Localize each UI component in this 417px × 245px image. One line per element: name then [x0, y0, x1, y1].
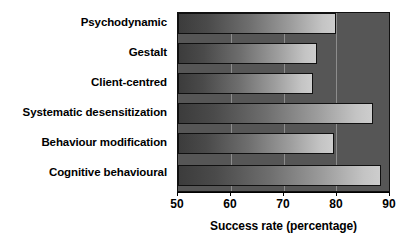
x-tick-label-90: 90 — [369, 197, 409, 211]
bar-chart: Psychodynamic Gestalt Client-centred Sys… — [0, 0, 417, 245]
bar-gestalt — [178, 43, 317, 64]
bar-systematic-desensitization — [178, 103, 373, 124]
x-axis-title: Success rate (percentage) — [177, 219, 390, 233]
x-tick-mark-80 — [336, 192, 337, 196]
x-tick-mark-70 — [283, 192, 284, 196]
x-tick-mark-90 — [389, 192, 390, 196]
category-label-client-centred: Client-centred — [0, 76, 167, 88]
x-tick-mark-60 — [230, 192, 231, 196]
category-label-cognitive-behavioural: Cognitive behavioural — [0, 166, 167, 178]
category-axis-labels: Psychodynamic Gestalt Client-centred Sys… — [0, 12, 172, 192]
bar-psychodynamic — [178, 13, 336, 34]
x-tick-label-80: 80 — [316, 197, 356, 211]
bar-cognitive-behavioural — [178, 165, 381, 186]
x-tick-label-70: 70 — [263, 197, 303, 211]
category-label-behaviour-modification: Behaviour modification — [0, 136, 167, 148]
category-label-systematic-desensitization: Systematic desensitization — [0, 106, 167, 118]
x-tick-label-60: 60 — [210, 197, 250, 211]
bar-client-centred — [178, 73, 313, 94]
bar-behaviour-modification — [178, 133, 334, 154]
x-tick-mark-50 — [177, 192, 178, 196]
plot-area — [177, 12, 390, 192]
x-tick-label-50: 50 — [157, 197, 197, 211]
category-label-gestalt: Gestalt — [0, 46, 167, 58]
category-label-psychodynamic: Psychodynamic — [0, 16, 167, 28]
